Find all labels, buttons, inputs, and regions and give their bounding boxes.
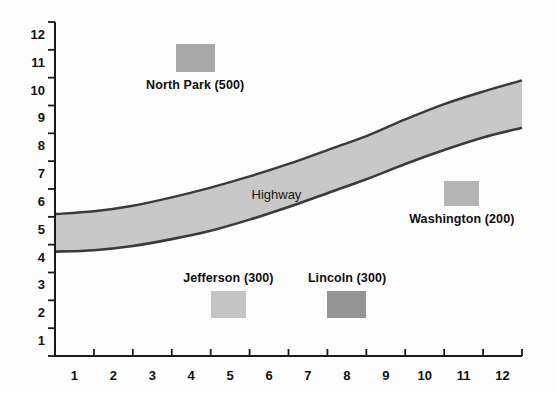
y-axis-tick-label: 11: [19, 55, 45, 70]
marker-swatch: [327, 291, 366, 319]
x-axis-tick-label: 12: [491, 368, 515, 383]
marker-swatch: [176, 44, 215, 72]
x-axis-tick-label: 1: [62, 368, 86, 383]
y-axis-tick-label: 6: [19, 194, 45, 209]
y-axis-tick-label: 3: [19, 277, 45, 292]
chart-figure: 123456789101112 123456789101112 Highway …: [0, 0, 557, 395]
y-axis-tick-label: 12: [19, 27, 45, 42]
highway-band-label: Highway: [252, 187, 302, 202]
marker-label: Lincoln (300): [308, 271, 386, 285]
x-axis-ticks: [55, 349, 522, 356]
marker-swatch: [444, 181, 479, 206]
x-axis-tick-label: 2: [101, 368, 125, 383]
y-axis-tick-label: 4: [19, 250, 45, 265]
y-axis-tick-label: 5: [19, 222, 45, 237]
y-axis-tick-label: 8: [19, 138, 45, 153]
x-axis-tick-label: 3: [140, 368, 164, 383]
y-axis-tick-label: 10: [19, 83, 45, 98]
y-axis-tick-label: 1: [19, 333, 45, 348]
highway-band-group: [55, 80, 522, 251]
marker-label: North Park (500): [146, 78, 244, 92]
x-axis-tick-label: 8: [335, 368, 359, 383]
x-axis-tick-label: 5: [218, 368, 242, 383]
y-axis-ticks: [48, 22, 55, 356]
x-axis-tick-label: 10: [413, 368, 437, 383]
x-axis-tick-label: 11: [452, 368, 476, 383]
x-axis-tick-label: 6: [257, 368, 281, 383]
x-axis-tick-label: 9: [374, 368, 398, 383]
x-axis-tick-label: 7: [296, 368, 320, 383]
x-axis-tick-label: 4: [179, 368, 203, 383]
y-axis-tick-label: 9: [19, 110, 45, 125]
marker-label: Washington (200): [409, 212, 514, 226]
y-axis-tick-label: 2: [19, 305, 45, 320]
y-axis-tick-label: 7: [19, 166, 45, 181]
marker-swatch: [211, 291, 246, 319]
marker-label: Jefferson (300): [183, 271, 273, 285]
highway-band-area: [55, 80, 522, 251]
